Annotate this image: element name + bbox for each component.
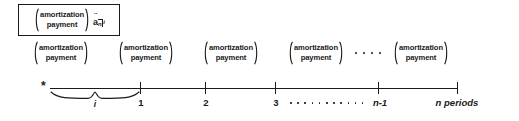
payment-term-1: amortization payment [33,41,89,65]
right-paren-icon [444,41,449,65]
formula-box: amortization payment a n i [18,4,120,36]
term-text: amortization payment [293,41,339,65]
axis-dot [348,102,350,104]
term-text: amortization payment [208,41,254,65]
term-line-1: amortization [39,43,83,53]
axis-ellipsis [290,102,363,104]
annuity-subscript: n i [98,19,105,27]
ellipsis-dot [355,52,357,54]
term-line-1: amortization [40,10,84,20]
annuity-periods: n [98,19,102,27]
payment-term-3: amortization payment [203,41,259,65]
term-line-1: amortization [124,43,168,53]
axis-dot [326,102,328,104]
ellipsis-dot [371,52,373,54]
ellipsis-dot [363,52,365,54]
axis-dot [304,102,306,104]
tick-mark-3 [275,82,276,94]
right-paren-icon [254,41,259,65]
annuity-due-timeline-figure: amortization payment a n i [0,0,519,121]
amortization-payment-term: amortization payment [34,8,90,32]
axis-dot [312,102,314,104]
right-paren-icon [169,41,174,65]
term-line-2: payment [46,53,77,63]
axis-dot [355,102,357,104]
term-line-1: amortization [209,43,253,53]
term-line-1: amortization [399,43,443,53]
term-line-1: amortization [294,43,338,53]
tick-mark-n [457,82,458,94]
term-line-2: payment [216,53,247,63]
annuity-due-symbol: a n i [93,16,105,27]
interval-label-i: i [94,99,96,109]
tick-label-n-periods: n periods [436,97,479,108]
timeline: * 1 2 3 n-1 n periods [0,66,519,121]
axis-dot [319,102,321,104]
term-text: amortization payment [123,41,169,65]
timeline-axis-line [50,88,457,89]
axis-dot [290,102,292,104]
axis-dot [340,102,342,104]
start-marker-asterisk: * [41,80,46,92]
axis-dot [333,102,335,104]
term-line-2: payment [47,20,78,30]
right-paren-icon [85,8,90,32]
tick-label-n-minus-1: n-1 [373,97,387,108]
payment-term-5: amortization payment [393,41,449,65]
tick-mark-2 [205,82,206,94]
tick-mark-1 [140,82,141,94]
tick-mark-n-minus-1 [378,82,379,94]
term-line-2: payment [131,53,162,63]
payments-row: amortization payment amortization paymen… [0,41,519,65]
ellipsis-dot [379,52,381,54]
tick-label-3: 3 [273,97,278,108]
right-paren-icon [339,41,344,65]
term-line-2: payment [406,53,437,63]
payments-ellipsis [355,41,381,65]
axis-dot [297,102,299,104]
payment-term-4: amortization payment [288,41,344,65]
term-line-2: payment [301,53,332,63]
axis-dot [362,102,364,104]
payment-term-2: amortization payment [118,41,174,65]
formula-expression: amortization payment a n i [34,8,105,32]
term-text: amortization payment [38,41,84,65]
term-text: amortization payment [39,8,85,32]
tick-label-2: 2 [203,97,208,108]
right-paren-icon [84,41,89,65]
term-text: amortization payment [398,41,444,65]
